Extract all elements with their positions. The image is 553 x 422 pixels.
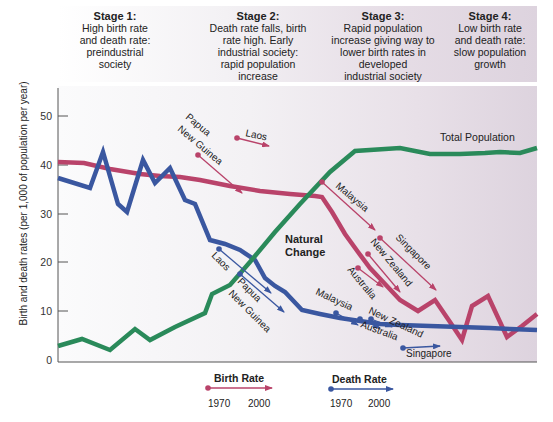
label-singapore-death: Singapore [406,348,452,359]
y-tick: 0 [46,354,52,366]
axes [58,88,537,362]
legend-arrows [205,385,393,392]
natural-change-label-2: Change [285,246,325,258]
legend-death-title: Death Rate [332,373,387,385]
legend-birth-start: 1970 [208,398,230,409]
legend-birth-title: Birth Rate [214,372,264,384]
label-malaysia-death: Malaysia [314,286,355,313]
y-tick: 10 [40,305,52,317]
y-tick: 30 [40,208,52,220]
y-tick: 50 [40,110,52,122]
label-laos-death: Laos [210,250,233,273]
legend-birth-end: 2000 [248,398,270,409]
y-ticks: 0 10 20 30 40 50 [40,110,52,366]
y-tick: 20 [40,256,52,268]
total-population-label: Total Population [440,131,515,143]
chart-svg: 0 10 20 30 40 50 [0,0,553,422]
y-tick: 40 [40,159,52,171]
natural-change-label: Natural [285,233,323,245]
legend-death-start: 1970 [330,398,352,409]
legend-death-end: 2000 [368,398,390,409]
